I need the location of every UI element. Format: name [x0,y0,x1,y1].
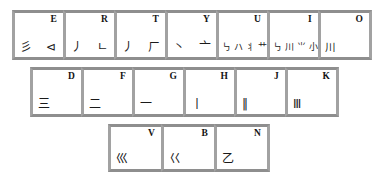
key-letter-t: T [152,14,159,25]
key-f[interactable]: F 二 [81,67,135,117]
key-letter-i: I [308,14,312,25]
key-letter-u: U [254,14,261,25]
key-strokes-d: 三 [38,97,78,111]
key-letter-n: N [254,128,261,139]
key-strokes-g: 一 [140,97,180,111]
key-letter-v: V [148,128,155,139]
key-letter-d: D [68,71,75,82]
key-y[interactable]: Y 丶 亠 [165,10,219,60]
key-r[interactable]: R 丿 ㄴ [63,10,117,60]
key-i[interactable]: I ㇉ 川 ⺌ 小 [267,10,321,60]
key-strokes-v: 巛 [116,152,158,166]
key-strokes-j: ‖ [242,97,282,111]
key-letter-y: Y [203,14,210,25]
keyboard-row-top: E 彡 ⊲ R 丿 ㄴ T 丿 ㄏ Y 丶 亠 U ㇉ ハ 丬 艹 I ㇉ 川 … [12,10,372,60]
key-letter-f: F [120,71,126,82]
key-strokes-b: 巜 [169,152,211,166]
keyboard-row-home: D 三 F 二 G 一 H 丨 J ‖ K Ⅲ [30,67,339,117]
key-j[interactable]: J ‖ [234,67,288,117]
key-strokes-o: 川 [325,40,366,54]
key-h[interactable]: H 丨 [183,67,237,117]
key-strokes-n: 乙 [222,152,264,166]
key-letter-h: H [220,71,228,82]
keyboard-row-bottom: V 巛 B 巜 N 乙 [108,124,270,172]
key-letter-g: G [169,71,177,82]
keyboard-layout-diagram: E 彡 ⊲ R 丿 ㄴ T 丿 ㄏ Y 丶 亠 U ㇉ ハ 丬 艹 I ㇉ 川 … [0,0,378,186]
key-n[interactable]: N 乙 [214,124,270,172]
key-strokes-t: 丿 ㄏ [122,40,162,54]
key-v[interactable]: V 巛 [108,124,164,172]
key-g[interactable]: G 一 [132,67,186,117]
key-strokes-k: Ⅲ [293,97,333,111]
key-strokes-f: 二 [89,97,129,111]
key-strokes-h: 丨 [191,97,231,111]
key-letter-b: B [201,128,208,139]
key-strokes-e: 彡 ⊲ [20,40,60,54]
key-letter-e: E [50,14,57,25]
key-k[interactable]: K Ⅲ [285,67,339,117]
key-u[interactable]: U ㇉ ハ 丬 艹 [216,10,270,60]
key-letter-o: O [355,14,363,25]
key-b[interactable]: B 巜 [161,124,217,172]
key-o[interactable]: O 川 [318,10,372,60]
key-strokes-r: 丿 ㄴ [71,40,111,54]
key-letter-r: R [101,14,108,25]
key-strokes-i: ㇉ 川 ⺌ 小 [273,40,315,54]
key-letter-j: J [274,71,279,82]
key-d[interactable]: D 三 [30,67,84,117]
key-t[interactable]: T 丿 ㄏ [114,10,168,60]
key-strokes-u: ㇉ ハ 丬 艹 [222,40,264,54]
key-e[interactable]: E 彡 ⊲ [12,10,66,60]
key-letter-k: K [322,71,330,82]
key-strokes-y: 丶 亠 [173,40,213,54]
